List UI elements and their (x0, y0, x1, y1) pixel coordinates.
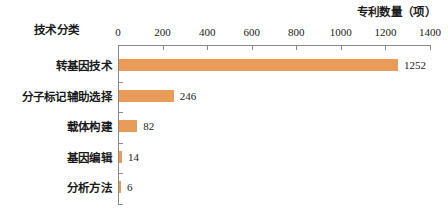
x-tick-label-1000: 1000 (330, 26, 352, 38)
category-label: 载体构建 (67, 118, 112, 134)
x-tick-label-400: 400 (199, 26, 216, 38)
bar-chart: 专利数量（项） 技术分类 0200400600800100012001400 转… (0, 0, 448, 217)
bar-value-label: 1252 (404, 59, 426, 71)
bar-row: 载体构建82 (0, 111, 448, 142)
y-tick-5 (118, 204, 123, 205)
category-label: 基因编辑 (67, 149, 112, 165)
bar-row: 转基因技术1252 (0, 50, 448, 81)
bar (119, 90, 174, 102)
bar-value-label: 82 (143, 120, 154, 132)
x-tick-label-1200: 1200 (374, 26, 396, 38)
bar (119, 120, 137, 132)
x-tick-label-1400: 1400 (419, 26, 441, 38)
bar (119, 181, 121, 193)
x-tick-label-200: 200 (154, 26, 171, 38)
x-axis-title: 专利数量（项） (357, 3, 436, 19)
bar-row: 分子标记辅助选择246 (0, 81, 448, 112)
bar-row: 基因编辑14 (0, 142, 448, 173)
y-axis-title: 技术分类 (34, 21, 79, 37)
bar (119, 151, 122, 163)
category-label: 转基因技术 (56, 57, 113, 73)
x-tick-label-800: 800 (288, 26, 305, 38)
category-label: 分子标记辅助选择 (22, 88, 112, 104)
bar-value-label: 14 (128, 151, 139, 163)
bar-row: 分析方法6 (0, 172, 448, 203)
x-axis-line (118, 45, 430, 46)
bar-value-label: 246 (180, 90, 197, 102)
category-label: 分析方法 (67, 179, 112, 195)
x-tick-label-0: 0 (115, 26, 121, 38)
x-tick-label-600: 600 (243, 26, 260, 38)
bar (119, 59, 398, 71)
bar-value-label: 6 (127, 181, 133, 193)
